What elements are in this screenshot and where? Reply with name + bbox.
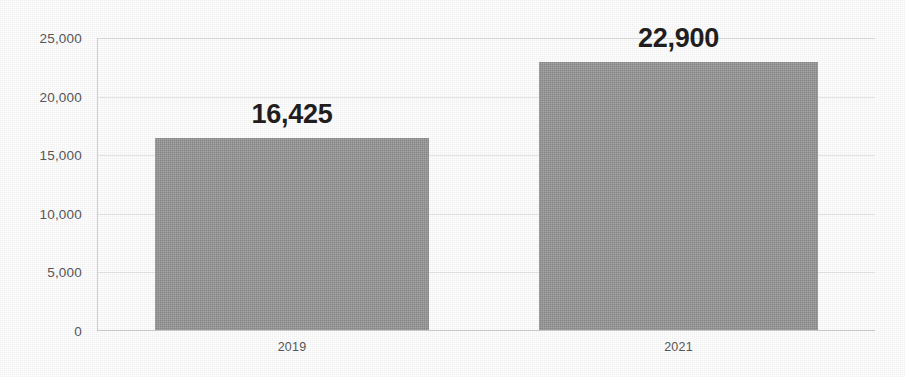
bar-2021[interactable] — [539, 62, 818, 330]
y-axis-tick-20000: 20,000 — [20, 89, 82, 104]
x-axis-tick-2019: 2019 — [155, 340, 429, 354]
bar-value-label-2019: 16,425 — [155, 99, 429, 130]
y-axis-tick-0: 0 — [20, 324, 82, 339]
y-axis-tick-25000: 25,000 — [20, 31, 82, 46]
y-axis-tick-5000: 5,000 — [20, 265, 82, 280]
bar-chart: 25,000 20,000 15,000 10,000 5,000 0 16,4… — [0, 0, 905, 377]
y-axis-tick-10000: 10,000 — [20, 206, 82, 221]
bar-value-label-2021: 22,900 — [539, 23, 818, 54]
y-axis-tick-labels: 25,000 20,000 15,000 10,000 5,000 0 — [20, 38, 82, 331]
x-axis-line — [97, 330, 875, 331]
bar-2019[interactable] — [155, 138, 429, 331]
y-axis-tick-15000: 15,000 — [20, 148, 82, 163]
y-axis-line — [97, 38, 98, 331]
x-axis-tick-2021: 2021 — [539, 340, 818, 354]
plot-area: 16,425 22,900 — [97, 38, 875, 331]
x-axis-tick-labels: 2019 2021 — [97, 338, 875, 364]
